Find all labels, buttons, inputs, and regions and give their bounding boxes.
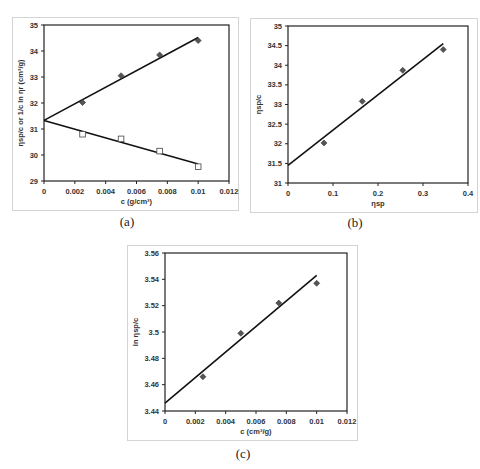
y-tick-label: 3.46: [144, 380, 159, 389]
y-tick-label: 3.56: [144, 249, 159, 258]
x-tick-label: 0: [163, 417, 167, 426]
y-tick-label: 3.52: [144, 301, 159, 310]
x-tick-label: 0.006: [247, 417, 266, 426]
y-tick-label: 3.5: [149, 328, 159, 337]
cut-off-figure-caption: [0, 462, 480, 469]
plot-area: [165, 253, 347, 411]
y-tick-label: 3.54: [144, 275, 159, 284]
x-tick-label: 0.008: [277, 417, 296, 426]
x-tick-label: 0.012: [338, 417, 357, 426]
x-tick-label: 0.01: [309, 417, 324, 426]
x-tick-label: 0.004: [216, 417, 236, 426]
data-point-diamond: [238, 330, 244, 336]
data-point-diamond: [314, 280, 320, 286]
chart-svg-c: 3.443.463.483.53.523.543.5600.0020.0040.…: [0, 0, 480, 469]
y-axis-label: ln ηsp/c: [131, 318, 140, 346]
x-tick-label: 0.002: [186, 417, 205, 426]
y-tick-label: 3.44: [144, 407, 159, 416]
x-axis-label: c (cm³/g): [240, 427, 272, 436]
y-tick-label: 3.48: [144, 354, 159, 363]
data-point-diamond: [200, 374, 206, 380]
fit-line: [165, 275, 317, 403]
